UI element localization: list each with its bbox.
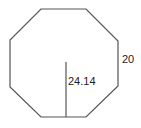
octagon-diagram: 20 24.14 [0, 0, 141, 128]
side-length-label: 20 [122, 53, 134, 65]
apothem-label: 24.14 [68, 75, 96, 87]
octagon-outline [10, 9, 118, 117]
